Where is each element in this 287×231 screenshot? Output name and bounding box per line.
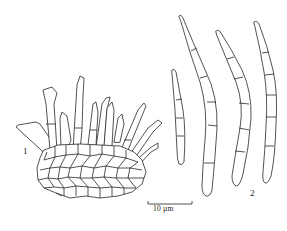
stroma [37,144,146,198]
illustration [0,0,287,231]
panel-1-label: 1 [23,147,28,156]
scale-bar-label: 10 µm [153,205,174,213]
conidium-4 [254,21,277,183]
conidium-3 [216,30,251,186]
conidium-2 [179,15,217,196]
panel-2-label: 2 [250,189,255,198]
figure: 1 2 10 µm [0,0,287,231]
conidium-1 [172,69,185,164]
